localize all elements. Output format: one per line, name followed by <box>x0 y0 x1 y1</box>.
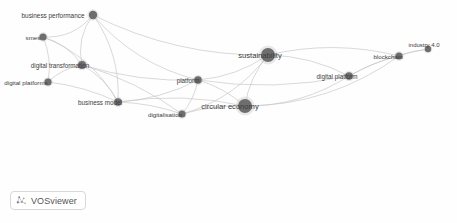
network-edge <box>82 65 182 114</box>
network-node-business-model[interactable] <box>114 98 122 106</box>
network-node-business-performance[interactable] <box>89 11 97 19</box>
network-node-digital-transformation[interactable] <box>78 61 86 69</box>
network-edge <box>268 55 349 76</box>
network-node-sustainability[interactable] <box>261 48 275 62</box>
network-node-industry-4-0[interactable] <box>425 46 431 52</box>
vosviewer-mark-icon <box>16 195 27 206</box>
vosviewer-logo[interactable]: VOSviewer <box>10 191 86 210</box>
network-edge <box>349 56 399 76</box>
network-edge <box>48 65 82 82</box>
network-canvas[interactable] <box>0 0 457 223</box>
network-edge <box>93 15 118 102</box>
network-edge <box>82 65 198 80</box>
network-edge <box>182 55 268 114</box>
network-edge <box>48 82 118 102</box>
network-edge <box>93 15 268 55</box>
network-node-smes[interactable] <box>39 33 46 40</box>
network-edge <box>349 49 428 76</box>
network-node-blockchain[interactable] <box>395 52 402 59</box>
network-edge <box>182 106 245 114</box>
network-edge <box>182 80 198 114</box>
network-node-digital-platforms[interactable] <box>44 78 51 85</box>
network-edge <box>80 15 93 65</box>
network-node-platform[interactable] <box>194 76 202 84</box>
network-edge <box>118 98 245 106</box>
network-node-circular-economy[interactable] <box>238 99 252 113</box>
network-edge <box>93 15 198 80</box>
vosviewer-logo-label: VOSviewer <box>31 196 77 206</box>
network-edge <box>198 76 349 85</box>
vosviewer-network-map: business performancesmesdigital transfor… <box>0 0 457 223</box>
network-edge <box>43 37 49 82</box>
network-edge <box>43 15 93 37</box>
network-edge <box>268 47 399 56</box>
network-edge <box>118 102 182 114</box>
network-node-digitalisation[interactable] <box>178 110 185 117</box>
network-node-digital-platform[interactable] <box>345 72 353 80</box>
edge-layer <box>43 15 428 114</box>
